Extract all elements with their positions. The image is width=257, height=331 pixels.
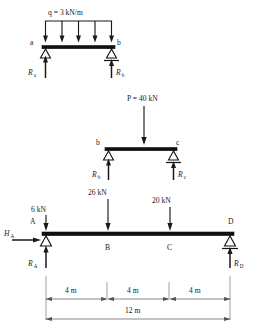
beam2-node-b-label: b [96, 138, 100, 147]
beam1-node-b-label: b [117, 38, 121, 47]
dim-line-total [45, 317, 231, 321]
udl-arrow-3 [76, 21, 81, 43]
beam1-support-b-roller [104, 49, 119, 61]
beam1-udl-label: q = 3 kN/m [48, 8, 83, 17]
beam2-reaction-c-label: R [177, 170, 183, 179]
beam2-support-c-roller [166, 151, 181, 163]
beam3-node-a-label: A [30, 217, 36, 226]
beam3-load-arrow-b [105, 199, 110, 231]
beam3-reaction-d-label: R [233, 259, 239, 268]
beam2-reaction-b: R b [91, 159, 111, 181]
udl-arrow-2 [60, 21, 65, 43]
dim-label-bc: 4 m [127, 286, 139, 295]
dim-label-total: 12 m [125, 306, 140, 315]
beam2-member [105, 148, 177, 151]
beam3-support-a-pin [41, 236, 52, 246]
beam-diagram-canvas: q = 3 kN/m [0, 0, 257, 331]
beam1-reaction-b-sub: b [122, 72, 125, 78]
beam1-reaction-a-label: R [27, 68, 33, 77]
beam3-horizontal-reaction: H A [3, 229, 41, 243]
beam3-horizontal-reaction-sub: A [11, 233, 15, 239]
beam-diagram-figure: q = 3 kN/m [0, 0, 257, 331]
dimension-group: 4 m 4 m 4 m 12 m [45, 276, 231, 321]
beam1-reaction-a-sub: a [34, 72, 37, 78]
beam1-reaction-a: R a [27, 56, 48, 79]
beam3-node-b-label: B [105, 243, 110, 252]
beam2-reaction-b-label: R [91, 170, 97, 179]
beam3-node-c-label: C [167, 243, 172, 252]
udl-arrow-5 [109, 21, 114, 43]
beam3-reaction-a: R A [27, 246, 49, 270]
beam3-member [42, 232, 234, 236]
beam3-support-d-roller [222, 236, 238, 249]
beam1-reaction-b-label: R [115, 68, 121, 77]
beam2-point-load-arrow [141, 106, 146, 145]
beam3-load-arrow-a [43, 215, 48, 231]
dim-label-ab: 4 m [65, 286, 77, 295]
beam3-load-b-label: 26 kN [88, 188, 107, 197]
beam2-reaction-b-sub: b [98, 174, 101, 180]
beam3-reaction-a-sub: A [34, 263, 38, 269]
dim-line-ab [45, 297, 108, 301]
beam1-group: q = 3 kN/m [27, 8, 125, 78]
beam3-load-c-label: 20 kN [152, 196, 171, 205]
beam1-member [42, 46, 115, 49]
dim-line-bc [107, 297, 170, 301]
beam3-reaction-d: R D [227, 247, 243, 269]
beam2-node-c-label: c [176, 138, 180, 147]
beam3-group: 26 kN 20 kN 6 kN A B C D H A [3, 188, 244, 269]
beam3-load-a-label: 6 kN [31, 205, 46, 214]
dim-line-cd [169, 297, 231, 301]
beam3-horizontal-reaction-label: H [3, 229, 10, 238]
beam3-reaction-d-sub: D [240, 263, 244, 269]
beam1-node-a-label: a [30, 38, 34, 47]
beam1-reaction-b: R b [109, 59, 125, 78]
beam1-udl-arrows [43, 21, 114, 43]
beam2-reaction-c: R c [171, 161, 187, 180]
beam3-reaction-a-label: R [27, 259, 33, 268]
beam2-point-load-label: P = 40 kN [127, 94, 158, 103]
dim-label-cd: 4 m [189, 286, 201, 295]
beam3-load-arrow-c [167, 207, 172, 231]
udl-arrow-4 [93, 21, 98, 43]
beam3-node-d-label: D [228, 217, 234, 226]
udl-arrow-1 [43, 21, 48, 43]
beam2-reaction-c-sub: c [184, 174, 187, 180]
beam2-group: P = 40 kN b c R b R c [91, 94, 187, 180]
